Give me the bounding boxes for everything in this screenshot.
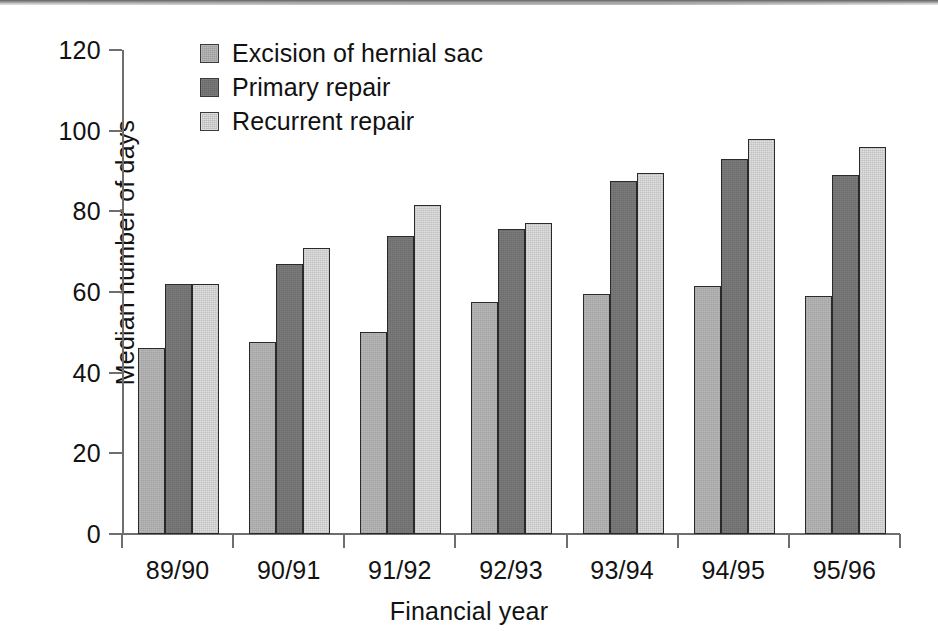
chart-page: Median number of days 020406080100120 89…: [0, 0, 938, 639]
bar[interactable]: [748, 139, 775, 534]
y-axis-tick-label: 120: [58, 36, 101, 65]
y-axis-tick: 80: [109, 210, 122, 212]
x-axis-tick: [677, 534, 679, 548]
scan-artifact-band: [0, 0, 938, 5]
y-axis-tick: 120: [109, 49, 122, 51]
bar-group-bars: [789, 50, 916, 534]
bar[interactable]: [276, 264, 303, 534]
y-axis-tick: 60: [109, 291, 122, 293]
chart-legend: Excision of hernial sacPrimary repairRec…: [200, 38, 483, 140]
x-axis-tick-origin: [121, 534, 123, 548]
legend-item[interactable]: Primary repair: [200, 72, 483, 102]
bar-group: [789, 50, 900, 534]
bar[interactable]: [859, 147, 886, 534]
bar[interactable]: [525, 223, 552, 534]
y-axis-tick-label: 60: [73, 278, 101, 307]
bar-group: [567, 50, 678, 534]
x-axis-tick-label: 95/96: [789, 556, 900, 585]
x-axis-title: Financial year: [0, 597, 938, 626]
y-axis-tick: 40: [109, 372, 122, 374]
bar[interactable]: [414, 205, 441, 534]
x-axis-tick: [566, 534, 568, 548]
y-axis-tick-label: 0: [87, 520, 101, 549]
x-axis-tick: [899, 534, 901, 548]
bar[interactable]: [165, 284, 192, 534]
legend-item-label: Excision of hernial sac: [232, 39, 483, 68]
bar[interactable]: [637, 173, 664, 534]
x-axis-tick-label: 89/90: [122, 556, 233, 585]
legend-item[interactable]: Recurrent repair: [200, 106, 483, 136]
y-axis-tick-label: 40: [73, 358, 101, 387]
y-axis-tick-label: 20: [73, 439, 101, 468]
x-axis-tick: [232, 534, 234, 548]
bar[interactable]: [694, 286, 721, 534]
bar-group-bars: [567, 50, 694, 534]
bar[interactable]: [832, 175, 859, 534]
x-axis-tick: [343, 534, 345, 548]
bar[interactable]: [303, 248, 330, 534]
series-2-swatch: [200, 112, 219, 131]
x-axis-tick-label: 90/91: [233, 556, 344, 585]
bar[interactable]: [192, 284, 219, 534]
legend-item[interactable]: Excision of hernial sac: [200, 38, 483, 68]
bar[interactable]: [721, 159, 748, 534]
bar[interactable]: [498, 229, 525, 534]
y-axis-tick: 20: [109, 452, 122, 454]
bar[interactable]: [805, 296, 832, 534]
bar[interactable]: [610, 181, 637, 534]
x-axis-tick-label: 93/94: [567, 556, 678, 585]
x-axis-tick-label: 94/95: [678, 556, 789, 585]
bar[interactable]: [583, 294, 610, 534]
bar-group-bars: [678, 50, 805, 534]
legend-item-label: Recurrent repair: [232, 107, 414, 136]
series-1-swatch: [200, 78, 219, 97]
bar[interactable]: [249, 342, 276, 534]
x-axis-tick-label: 91/92: [344, 556, 455, 585]
bar-group: [678, 50, 789, 534]
y-axis-tick-label: 100: [58, 116, 101, 145]
bar[interactable]: [387, 236, 414, 534]
x-axis-tick-label: 92/93: [455, 556, 566, 585]
bar[interactable]: [138, 348, 165, 534]
series-0-swatch: [200, 44, 219, 63]
y-axis-tick: 100: [109, 130, 122, 132]
x-axis-tick: [454, 534, 456, 548]
y-axis-tick-label: 80: [73, 197, 101, 226]
x-axis-tick: [788, 534, 790, 548]
bar[interactable]: [471, 302, 498, 534]
legend-item-label: Primary repair: [232, 73, 390, 102]
bar[interactable]: [360, 332, 387, 534]
